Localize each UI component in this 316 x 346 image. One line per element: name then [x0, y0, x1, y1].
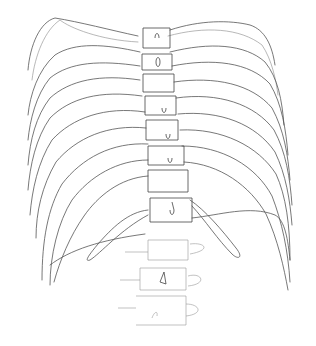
left-ribs	[28, 18, 148, 285]
spine	[118, 28, 204, 325]
rib-cage-drawing	[0, 0, 316, 346]
rib-cage-sketch	[0, 0, 316, 346]
right-ribs	[168, 22, 292, 290]
costal-margin	[50, 211, 290, 265]
